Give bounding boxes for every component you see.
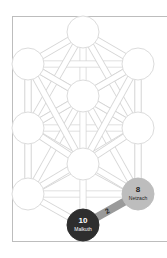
sephirah-node-4[interactable] — [122, 112, 154, 144]
node-number: 8 — [136, 185, 141, 194]
sephirah-node-6[interactable] — [67, 80, 99, 112]
sephirah-node-2[interactable] — [122, 48, 154, 80]
sephirah-node-5[interactable] — [12, 112, 44, 144]
sephirah-node-3[interactable] — [12, 48, 44, 80]
paths-layer — [28, 32, 138, 225]
tree-of-life-diagram: 2 8Netzach10Malkuth — [0, 0, 167, 258]
sephirah-node-9[interactable] — [67, 148, 99, 180]
sephirah-node-10[interactable]: 10Malkuth — [67, 209, 99, 241]
sephirah-node-1[interactable] — [67, 16, 99, 48]
node-name: Malkuth — [74, 226, 92, 232]
node-number: 10 — [79, 216, 88, 225]
sephirah-node-7[interactable] — [12, 178, 44, 210]
node-name: Netzach — [129, 195, 148, 201]
sephirah-node-8[interactable]: 8Netzach — [122, 178, 154, 210]
